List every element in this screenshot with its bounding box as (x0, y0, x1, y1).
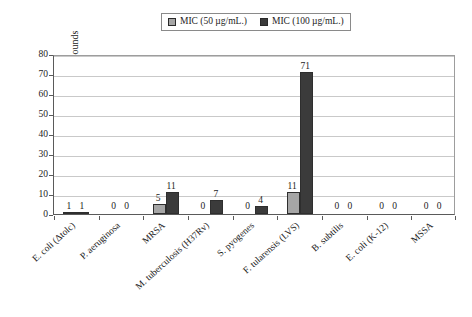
y-axis-tick-label: 10 (20, 190, 48, 200)
bar-value-label: 0 (190, 202, 215, 212)
x-axis-tick-mark (188, 216, 189, 220)
x-axis-category-label: S. pyogenes (216, 221, 256, 259)
bar-chart: MIC (50 µg/mL.) MIC (100 µg/mL.) Counts … (0, 0, 472, 317)
bar-mic-50 (153, 204, 166, 214)
legend-label-mic-100: MIC (100 µg/mL.) (272, 17, 344, 27)
y-axis-tick-mark (49, 155, 53, 156)
x-axis-tick-mark (455, 216, 456, 220)
x-axis-tick-mark (277, 216, 278, 220)
bar-value-label: 4 (248, 196, 273, 206)
y-axis-tick-mark (49, 75, 53, 76)
x-axis-tick-mark (233, 216, 234, 220)
y-axis-tick-label: 80 (20, 50, 48, 60)
y-axis-tick-mark (49, 215, 53, 216)
gridline (54, 56, 454, 57)
x-axis-category-label: E. coli (Δtolc) (31, 221, 77, 264)
bar-mic-100 (300, 72, 313, 214)
x-axis-tick-mark (322, 216, 323, 220)
gridline (54, 96, 454, 97)
bar-value-label: 7 (203, 190, 228, 200)
y-axis-tick-mark (49, 175, 53, 176)
y-axis-tick-mark (49, 115, 53, 116)
bar-value-label: 11 (280, 182, 305, 192)
plot-area (53, 55, 455, 215)
bar-value-label: 11 (159, 182, 184, 192)
gridline (54, 136, 454, 137)
y-axis-tick-mark (49, 95, 53, 96)
y-axis-tick-mark (49, 195, 53, 196)
y-axis-tick-label: 60 (20, 90, 48, 100)
bar-value-label: 0 (114, 202, 139, 212)
gridline (54, 176, 454, 177)
dark-gray-swatch-icon (260, 18, 268, 26)
y-axis-tick-label: 0 (20, 210, 48, 220)
legend-label-mic-50: MIC (50 µg/mL.) (180, 17, 247, 27)
gridline (54, 76, 454, 77)
y-axis-tick-label: 40 (20, 130, 48, 140)
x-axis-category-label: MRSA (141, 221, 167, 246)
x-axis-category-label: B. subtilis (311, 221, 346, 254)
legend-item-mic-100: MIC (100 µg/mL.) (260, 17, 344, 27)
bar-mic-50 (63, 212, 76, 214)
gridline (54, 116, 454, 117)
bar-mic-50 (287, 192, 300, 214)
y-axis-tick-mark (49, 135, 53, 136)
bar-value-label: 0 (337, 202, 362, 212)
bar-value-label: 1 (69, 202, 94, 212)
y-axis-tick-label: 50 (20, 110, 48, 120)
bar-mic-100 (76, 212, 89, 214)
x-axis-tick-mark (54, 216, 55, 220)
x-axis-tick-mark (411, 216, 412, 220)
y-axis-tick-label: 30 (20, 150, 48, 160)
x-axis-category-label: E. coli (K-12) (345, 221, 391, 264)
x-axis-category-label: MSSA (409, 221, 435, 245)
bar-value-label: 0 (427, 202, 452, 212)
bar-value-label: 0 (382, 202, 407, 212)
x-axis-tick-mark (367, 216, 368, 220)
y-axis-tick-label: 20 (20, 170, 48, 180)
bar-value-label: 71 (293, 62, 318, 72)
chart-legend: MIC (50 µg/mL.) MIC (100 µg/mL.) (161, 13, 351, 31)
y-axis-tick-label: 70 (20, 70, 48, 80)
x-axis-tick-mark (99, 216, 100, 220)
light-gray-swatch-icon (168, 18, 176, 26)
y-axis-tick-mark (49, 55, 53, 56)
x-axis-category-label: P. aeruginosa (79, 221, 123, 262)
x-axis-tick-mark (143, 216, 144, 220)
legend-item-mic-50: MIC (50 µg/mL.) (168, 17, 247, 27)
gridline (54, 156, 454, 157)
bar-value-label: 5 (146, 194, 171, 204)
